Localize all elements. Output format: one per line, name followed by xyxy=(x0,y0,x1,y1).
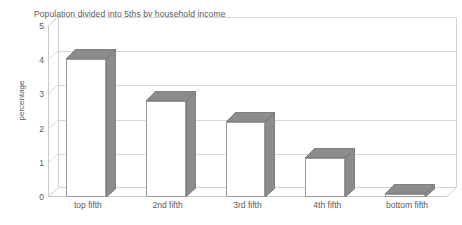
y-tick-label: 3 xyxy=(28,90,44,99)
bar-side-face xyxy=(425,185,435,197)
bar[interactable] xyxy=(66,59,106,198)
axis-depth-corner-bottom-left xyxy=(48,188,59,198)
x-tick-label: 2nd fifth xyxy=(128,200,208,210)
x-tick-label: top fifth xyxy=(48,200,128,210)
gridline-depth-connector xyxy=(48,120,59,130)
axis-depth-corner-bottom-right xyxy=(446,188,457,198)
gridline xyxy=(58,85,457,86)
x-tick-label: 3rd fifth xyxy=(208,200,288,210)
bar-side-face xyxy=(345,149,355,197)
y-axis-tick-labels: 012345 xyxy=(24,26,44,197)
y-tick-label: 5 xyxy=(28,22,44,31)
gridline-depth-connector xyxy=(48,51,59,61)
bar[interactable] xyxy=(146,101,186,197)
x-tick-label: 4th fifth xyxy=(287,200,367,210)
y-tick-label: 1 xyxy=(28,159,44,168)
bar[interactable] xyxy=(385,194,425,197)
y-tick-label: 2 xyxy=(28,125,44,134)
bar-front-face xyxy=(66,59,106,198)
bar-side-face xyxy=(106,50,116,198)
gridline-depth-connector xyxy=(48,154,59,164)
bar-side-face xyxy=(186,92,196,197)
bar[interactable] xyxy=(305,158,345,197)
plot-area xyxy=(48,26,447,197)
bar[interactable] xyxy=(226,122,266,197)
bar-chart: Population divided into 5ths by househol… xyxy=(0,0,462,225)
bar-front-face xyxy=(305,158,345,197)
bar-front-face xyxy=(385,194,425,197)
gridline-depth-connector xyxy=(48,85,59,95)
bar-front-face xyxy=(226,122,266,197)
x-tick-label: bottom fifth xyxy=(367,200,447,210)
gridline xyxy=(58,17,457,18)
x-axis-tick-labels: top fifth2nd fifth3rd fifth4th fifthbott… xyxy=(48,200,458,214)
y-tick-label: 0 xyxy=(28,193,44,202)
gridline xyxy=(58,51,457,52)
bar-front-face xyxy=(146,101,186,197)
bar-side-face xyxy=(265,113,275,197)
gridline-depth-connector xyxy=(48,17,59,27)
y-tick-label: 4 xyxy=(28,56,44,65)
